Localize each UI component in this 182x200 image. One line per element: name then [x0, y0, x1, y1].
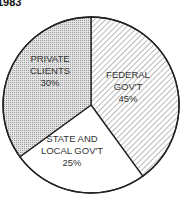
slice-value-label: 30%: [40, 77, 60, 88]
slice-label: STATE AND: [46, 133, 98, 144]
slice-label: CLIENTS: [30, 65, 70, 76]
slice-label: GOV'T: [114, 81, 143, 92]
slice-value-label: 45%: [118, 93, 138, 104]
slice-label: LOCAL GOV'T: [41, 145, 103, 156]
slice-label: PRIVATE: [30, 53, 69, 64]
slice-value-label: 25%: [62, 157, 82, 168]
slice-label: FEDERAL: [106, 69, 150, 80]
pie-chart: FEDERALGOV'T45%STATE ANDLOCAL GOV'T25%PR…: [0, 0, 182, 200]
